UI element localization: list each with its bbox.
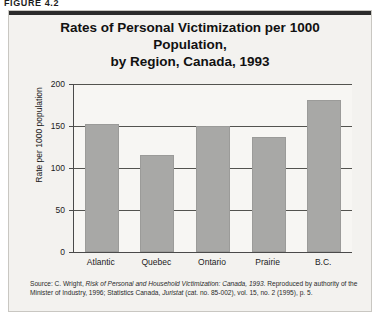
bars-layer: [74, 84, 352, 252]
x-label-bc: B.C.: [295, 257, 351, 267]
bar-prairie: [252, 137, 286, 252]
x-label-atlantic: Atlantic: [73, 257, 129, 267]
y-tick-label-50: 50: [25, 206, 65, 215]
figure-container: FIGURE 4.2 Rates of Personal Victimizati…: [0, 0, 384, 329]
bar-atlantic: [85, 124, 119, 252]
bar-slot-ontario: [185, 84, 241, 252]
bar-slot-quebec: [130, 84, 186, 252]
bar-quebec: [140, 155, 174, 252]
chart-title-line-2: by Region, Canada, 1993: [22, 53, 358, 70]
source-report-title: Risk of Personal and Household Victimiza…: [86, 280, 264, 287]
figure-top-rule: [9, 11, 371, 15]
source-publication-title: Juristat: [162, 289, 183, 296]
plot-area: [73, 84, 352, 253]
x-label-ontario: Ontario: [184, 257, 240, 267]
y-tick-label-200: 200: [25, 80, 65, 89]
source-suffix: (cat. no. 85-002), vol. 15, no. 2 (1995)…: [183, 289, 312, 296]
chart-title-line-1: Rates of Personal Victimization per 1000…: [60, 20, 319, 52]
x-label-quebec: Quebec: [129, 257, 185, 267]
bar-ontario: [196, 126, 230, 252]
figure-number-label: FIGURE 4.2: [4, 0, 59, 8]
bar-bc: [307, 100, 341, 252]
chart-title: Rates of Personal Victimization per 1000…: [22, 19, 358, 70]
bar-slot-bc: [296, 84, 352, 252]
y-tick-label-150: 150: [25, 122, 65, 131]
y-tick-label-100: 100: [25, 164, 65, 173]
bar-slot-prairie: [241, 84, 297, 252]
y-axis-title: Rate per 1000 population: [34, 60, 44, 210]
bar-slot-atlantic: [74, 84, 130, 252]
x-label-prairie: Prairie: [240, 257, 296, 267]
x-axis-labels: Atlantic Quebec Ontario Prairie B.C.: [73, 257, 351, 267]
source-note: Source: C. Wright, Risk of Personal and …: [30, 279, 360, 297]
source-prefix: Source: C. Wright,: [30, 280, 86, 287]
y-tick-label-0: 0: [25, 248, 65, 257]
